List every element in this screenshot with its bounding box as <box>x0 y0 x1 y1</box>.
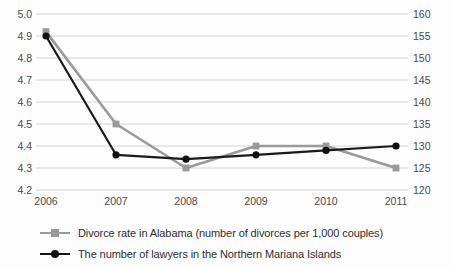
left-axis-tick-label: 4.4 <box>17 140 32 152</box>
left-axis-tick-label: 4.8 <box>17 52 32 64</box>
chart-legend: Divorce rate in Alabama (number of divor… <box>40 222 440 264</box>
right-axis-tick-label: 145 <box>413 74 431 86</box>
data-point-marker <box>182 156 189 163</box>
right-axis-tick-label: 135 <box>413 118 431 130</box>
right-axis-tick-labels: 160155150145140135130125120 <box>413 8 431 196</box>
data-point-marker <box>252 151 259 158</box>
x-axis-tick-label: 2010 <box>314 195 338 207</box>
left-axis-tick-label: 4.7 <box>17 74 32 86</box>
left-axis-tick-label: 4.3 <box>17 162 32 174</box>
series-line-black <box>46 36 396 159</box>
data-point-marker <box>42 32 49 39</box>
data-point-marker <box>113 121 120 128</box>
chart-container: 5.04.94.84.74.64.54.44.34.2 160155150145… <box>0 0 450 269</box>
left-axis-tick-label: 4.9 <box>17 30 32 42</box>
x-axis-tick-label: 2009 <box>244 195 268 207</box>
right-axis-tick-label: 150 <box>413 52 431 64</box>
gridlines-group <box>36 14 408 190</box>
right-axis-tick-label: 125 <box>413 162 431 174</box>
left-axis-tick-label: 4.2 <box>17 184 32 196</box>
right-axis-tick-label: 130 <box>413 140 431 152</box>
legend-item-divorce-rate: Divorce rate in Alabama (number of divor… <box>40 222 440 243</box>
x-axis-tick-label: 2007 <box>104 195 128 207</box>
right-axis-tick-label: 155 <box>413 30 431 42</box>
x-axis-tick-labels: 200620072008200920102011 <box>34 195 407 207</box>
left-axis-tick-labels: 5.04.94.84.74.64.54.44.34.2 <box>17 8 32 196</box>
left-axis-tick-label: 4.6 <box>17 96 32 108</box>
data-point-marker <box>183 165 190 172</box>
series-group <box>42 28 399 171</box>
legend-swatch-square-icon <box>40 226 70 240</box>
data-point-marker <box>393 165 400 172</box>
left-axis-tick-label: 4.5 <box>17 118 32 130</box>
legend-swatch-circle-icon <box>40 247 70 261</box>
legend-label-divorce-rate: Divorce rate in Alabama (number of divor… <box>78 227 383 239</box>
right-axis-tick-label: 120 <box>413 184 431 196</box>
data-point-marker <box>392 142 399 149</box>
x-axis-tick-label: 2006 <box>34 195 58 207</box>
legend-label-lawyers: The number of lawyers in the Northern Ma… <box>78 248 341 260</box>
legend-item-lawyers: The number of lawyers in the Northern Ma… <box>40 243 440 264</box>
x-axis-tick-label: 2008 <box>174 195 198 207</box>
right-axis-tick-label: 160 <box>413 8 431 20</box>
data-point-marker <box>322 147 329 154</box>
right-axis-tick-label: 140 <box>413 96 431 108</box>
left-axis-tick-label: 5.0 <box>17 8 32 20</box>
line-chart-plot: 5.04.94.84.74.64.54.44.34.2 160155150145… <box>0 0 450 220</box>
x-axis-tick-label: 2011 <box>385 195 408 207</box>
data-point-marker <box>112 151 119 158</box>
data-point-marker <box>253 143 260 150</box>
series-line-gray <box>46 32 396 168</box>
